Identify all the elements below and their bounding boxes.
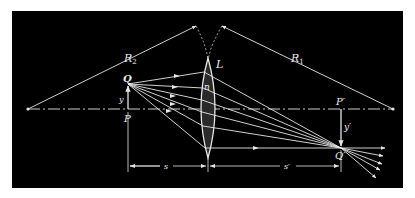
- label-y: y: [118, 95, 124, 104]
- label-y-prime: y′: [343, 122, 351, 132]
- label-P: P: [123, 113, 131, 124]
- label-lens: L: [215, 58, 223, 71]
- label-Q-prime: Q′: [335, 150, 346, 161]
- lens: [201, 58, 215, 158]
- label-index: n: [204, 82, 210, 92]
- label-s: s: [164, 162, 168, 171]
- thin-lens-diagram: R2 R1 L n Q P y P′ y′ Q′ s s′: [0, 0, 415, 198]
- label-R1: R1: [290, 52, 304, 66]
- label-Q: Q: [123, 73, 132, 84]
- label-s-prime: s′: [284, 162, 290, 171]
- distance-s-prime: [210, 164, 339, 168]
- label-R2: R2: [123, 52, 137, 66]
- label-P-prime: P′: [335, 96, 346, 107]
